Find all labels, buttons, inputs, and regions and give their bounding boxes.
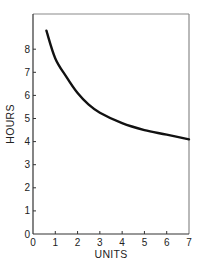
x-tick-label: 7 [186,237,192,248]
y-tick-label: 2 [24,182,30,193]
y-tick-label: 8 [24,44,30,55]
plot-frame [33,14,189,234]
x-tick-label: 5 [142,237,148,248]
x-tick-label: 6 [164,237,170,248]
x-tick-label: 0 [30,237,36,248]
y-tick-label: 5 [24,113,30,124]
data-line [46,31,189,140]
y-axis-title: HOURS [4,104,16,143]
y-tick-label: 3 [24,159,30,170]
y-tick-label: 4 [24,136,30,147]
x-axis-title: UNITS [95,248,128,260]
y-tick-label: 1 [24,205,30,216]
y-tick-label: 6 [24,90,30,101]
y-tick-label: 7 [24,67,30,78]
x-tick-label: 3 [97,237,103,248]
x-tick-label: 2 [75,237,81,248]
y-axis-ticks: 012345678 [24,44,36,240]
x-tick-label: 1 [53,237,59,248]
learning-curve-chart: 012345678 01234567 UNITS HOURS [0,0,203,267]
x-tick-label: 4 [119,237,125,248]
